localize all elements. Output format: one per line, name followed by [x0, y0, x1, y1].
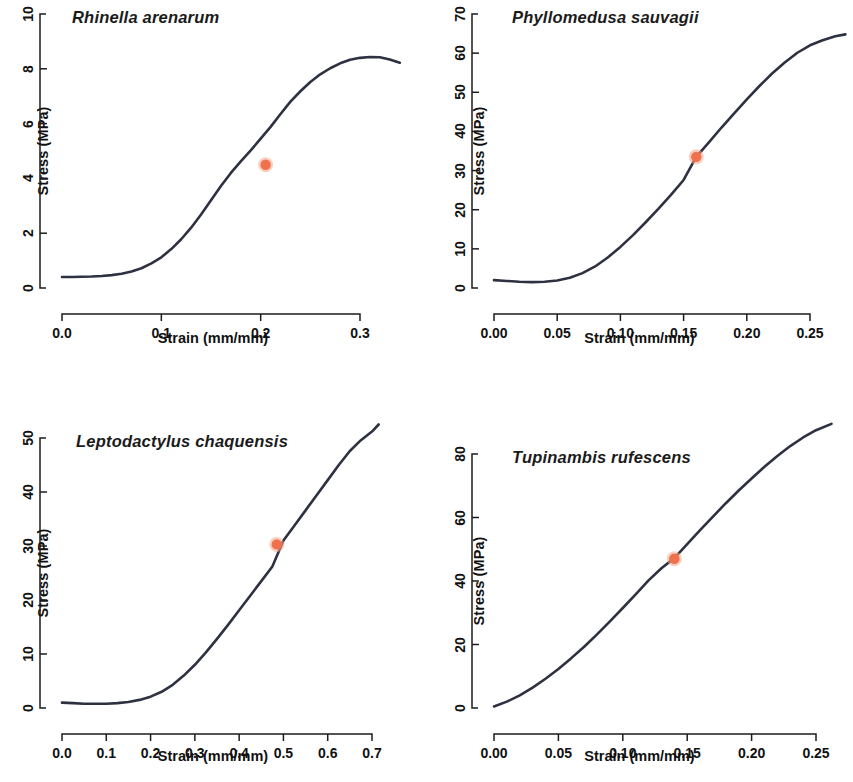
y-tick-label: 0 — [452, 284, 468, 292]
x-tick-label: 0.6 — [318, 745, 337, 761]
x-tick-label: 0.00 — [480, 325, 507, 341]
x-tick-label: 0.1 — [97, 745, 116, 761]
x-tick-label: 0.15 — [670, 325, 697, 341]
y-tick-label: 50 — [20, 430, 36, 446]
y-tick-label: 50 — [452, 84, 468, 100]
x-tick-label: 0.00 — [480, 745, 507, 761]
y-tick-label: 20 — [452, 202, 468, 218]
yield-point-marker — [691, 152, 701, 162]
x-tick-label: 0.1 — [152, 325, 171, 341]
y-tick-label: 30 — [452, 163, 468, 179]
x-tick-label: 0.05 — [545, 745, 572, 761]
x-tick-label: 0.0 — [52, 325, 71, 341]
yield-point-marker — [272, 539, 282, 549]
y-tick-label: 40 — [20, 484, 36, 500]
panel-rhinella-arenarum: Stress (MPa) Rhinella arenarum Strain (m… — [0, 0, 426, 392]
x-tick-label: 0.2 — [251, 325, 270, 341]
y-tick-label: 20 — [20, 592, 36, 608]
x-tick-label: 0.3 — [350, 325, 369, 341]
y-tick-label: 60 — [452, 45, 468, 61]
x-tick-label: 0.20 — [738, 745, 765, 761]
x-tick-label: 0.25 — [796, 325, 823, 341]
y-tick-label: 6 — [20, 120, 36, 128]
y-tick-label: 80 — [452, 446, 468, 462]
x-tick-label: 0.25 — [802, 745, 829, 761]
panel-leptodactylus-chaquensis: Stress (MPa) Leptodactylus chaquensis St… — [0, 392, 426, 782]
x-tick-label: 0.10 — [607, 325, 634, 341]
panel3-plot — [0, 392, 426, 782]
y-tick-label: 30 — [20, 538, 36, 554]
x-tick-label: 0.20 — [733, 325, 760, 341]
x-tick-label: 0.2 — [141, 745, 160, 761]
stress-strain-figure: Stress (MPa) Rhinella arenarum Strain (m… — [0, 0, 853, 782]
y-tick-label: 60 — [452, 510, 468, 526]
y-tick-label: 40 — [452, 573, 468, 589]
y-tick-label: 0 — [20, 284, 36, 292]
x-tick-label: 0.15 — [674, 745, 701, 761]
y-tick-label: 10 — [452, 241, 468, 257]
yield-point-marker — [260, 160, 270, 170]
panel-tupinambis-rufescens: Stress (MPa) Tupinambis rufescens Strain… — [426, 392, 853, 782]
x-tick-label: 0.10 — [609, 745, 636, 761]
y-tick-label: 70 — [452, 6, 468, 22]
panel-phyllomedusa-sauvagii: Stress (MPa) Phyllomedusa sauvagii Strai… — [426, 0, 853, 392]
y-tick-label: 20 — [452, 637, 468, 653]
y-tick-label: 8 — [20, 65, 36, 73]
x-tick-label: 0.5 — [274, 745, 293, 761]
x-tick-label: 0.05 — [544, 325, 571, 341]
x-tick-label: 0.0 — [52, 745, 71, 761]
x-tick-label: 0.7 — [362, 745, 381, 761]
y-tick-label: 10 — [20, 646, 36, 662]
y-tick-label: 2 — [20, 229, 36, 237]
y-tick-label: 0 — [452, 704, 468, 712]
panel4-plot — [426, 392, 853, 782]
y-tick-label: 0 — [20, 704, 36, 712]
x-tick-label: 0.4 — [229, 745, 248, 761]
y-tick-label: 40 — [452, 124, 468, 140]
yield-point-marker — [669, 554, 679, 564]
x-tick-label: 0.3 — [185, 745, 204, 761]
y-tick-label: 10 — [20, 6, 36, 22]
y-tick-label: 4 — [20, 174, 36, 182]
